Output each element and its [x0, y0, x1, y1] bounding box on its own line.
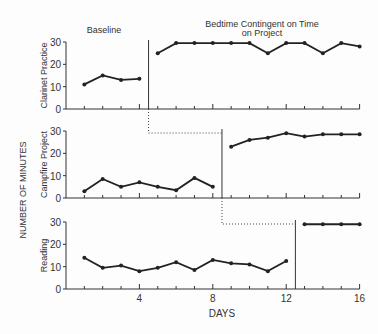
data-point [192, 41, 196, 45]
y-tick-label: 30 [50, 126, 62, 137]
data-point [211, 41, 215, 45]
panel-label: Clarinet Practice [39, 42, 49, 108]
phase-connector [222, 198, 295, 224]
data-point [156, 266, 160, 270]
data-point [137, 269, 141, 273]
x-tick-label: 4 [137, 293, 143, 304]
x-tick-label: 8 [210, 293, 216, 304]
data-point [119, 78, 123, 82]
y-tick-label: 20 [50, 148, 62, 159]
data-point [303, 135, 307, 139]
y-tick-label: 0 [55, 193, 61, 204]
data-point [266, 136, 270, 140]
data-point [266, 51, 270, 55]
data-point [192, 176, 196, 180]
data-point [321, 51, 325, 55]
y-axis-label: NUMBER OF MINUTES [18, 141, 28, 238]
baseline-series-line [84, 76, 139, 85]
data-point [284, 41, 288, 45]
data-point [192, 268, 196, 272]
y-tick-label: 30 [50, 217, 62, 228]
y-tick-label: 0 [55, 284, 61, 295]
data-point [229, 41, 233, 45]
data-point [321, 222, 325, 226]
baseline-series-line [84, 258, 286, 271]
baseline-label: Baseline [87, 25, 122, 35]
data-point [248, 138, 252, 142]
y-tick-label: 10 [50, 82, 62, 93]
data-point [119, 185, 123, 189]
multiple-baseline-chart: BaselineBedtime Contingent on Timeon Pro… [0, 0, 378, 334]
x-axis-label: DAYS [209, 308, 236, 319]
data-point [211, 185, 215, 189]
data-point [248, 262, 252, 266]
data-point [174, 260, 178, 264]
data-point [284, 131, 288, 135]
y-tick-label: 10 [50, 262, 62, 273]
data-point [229, 261, 233, 265]
data-point [358, 44, 362, 48]
y-tick-label: 10 [50, 171, 62, 182]
data-point [101, 177, 105, 181]
phase-connector [149, 109, 222, 133]
panel-label: Campfire Project [39, 130, 49, 198]
y-tick-label: 20 [50, 59, 62, 70]
data-point [303, 41, 307, 45]
data-point [101, 266, 105, 270]
data-point [137, 180, 141, 184]
data-point [303, 222, 307, 226]
y-tick-label: 20 [50, 239, 62, 250]
data-point [211, 258, 215, 262]
treatment-series-line [158, 43, 360, 53]
data-point [101, 74, 105, 78]
data-point [229, 145, 233, 149]
data-point [174, 41, 178, 45]
data-point [82, 82, 86, 86]
y-tick-label: 30 [50, 37, 62, 48]
chart-canvas: BaselineBedtime Contingent on Timeon Pro… [0, 0, 378, 334]
data-point [339, 222, 343, 226]
treatment-label-line2: on Project [242, 28, 283, 38]
data-point [137, 77, 141, 81]
data-point [156, 51, 160, 55]
data-point [174, 188, 178, 192]
panel-label: Reading [39, 239, 49, 273]
data-point [339, 41, 343, 45]
y-tick-label: 0 [55, 104, 61, 115]
data-point [156, 185, 160, 189]
data-point [339, 132, 343, 136]
data-point [119, 264, 123, 268]
data-point [266, 269, 270, 273]
data-point [358, 222, 362, 226]
data-point [248, 41, 252, 45]
x-tick-label: 16 [354, 293, 366, 304]
x-tick-label: 12 [281, 293, 293, 304]
data-point [284, 259, 288, 263]
data-point [82, 256, 86, 260]
data-point [82, 189, 86, 193]
data-point [358, 132, 362, 136]
data-point [321, 132, 325, 136]
